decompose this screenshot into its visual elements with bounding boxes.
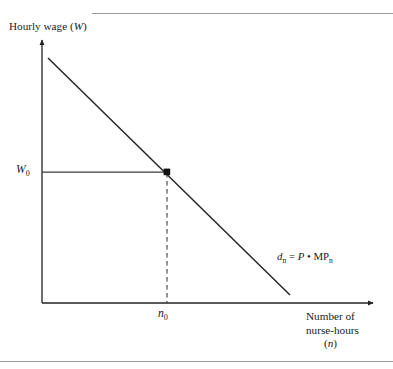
y-axis-title-text: Hourly wage (9, 20, 67, 32)
quantity-tick-label: n0 (158, 307, 168, 323)
demand-curve (48, 58, 290, 295)
quantity-tick-subscript: 0 (164, 313, 168, 322)
wage-tick-symbol: W (16, 163, 26, 176)
figure-container: Hourly wage (W) W0 n0 dn = P • MPn Numbe… (0, 0, 393, 369)
curve-label-multiply-dot: • (307, 250, 311, 262)
curve-label-mp-subscript: n (329, 256, 333, 265)
y-axis-title-symbol: W (74, 20, 83, 32)
x-axis-title-line2: nurse-hours (306, 324, 359, 338)
x-axis-title-line1: Number of (306, 310, 359, 324)
demand-curve-label: dn = P • MPn (277, 250, 333, 266)
wage-tick-subscript: 0 (26, 169, 30, 178)
curve-label-equals: = (289, 250, 295, 262)
x-axis-title: Number of nurse-hours (n) (306, 310, 359, 351)
equilibrium-point-marker (164, 169, 171, 176)
curve-label-mp: MP (313, 250, 329, 262)
y-axis-title: Hourly wage (W) (9, 20, 87, 33)
wage-tick-label: W0 (16, 163, 30, 179)
x-axis-title-symbol: n (328, 337, 334, 349)
x-axis-title-line3: (n) (306, 337, 359, 351)
curve-label-p: P (298, 250, 305, 262)
curve-label-d-subscript: n (282, 256, 286, 265)
